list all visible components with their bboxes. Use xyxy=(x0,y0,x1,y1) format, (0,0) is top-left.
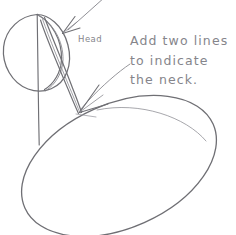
neck-lines xyxy=(41,18,82,114)
annotation-note: Add two lines to indicate the neck. xyxy=(130,31,228,90)
head-center-vertical-line xyxy=(37,14,39,145)
sketch-page: Head Add two lines to indicate the neck. xyxy=(0,0,236,235)
head-circle xyxy=(3,15,69,92)
annotation-line-1: Add two lines xyxy=(130,31,228,51)
label-head: Head xyxy=(78,34,102,44)
annotation-line-3: the neck. xyxy=(130,70,228,90)
body-ellipse xyxy=(0,67,236,235)
annotation-line-2: to indicate xyxy=(130,51,228,71)
arrow-to-head xyxy=(63,0,106,34)
